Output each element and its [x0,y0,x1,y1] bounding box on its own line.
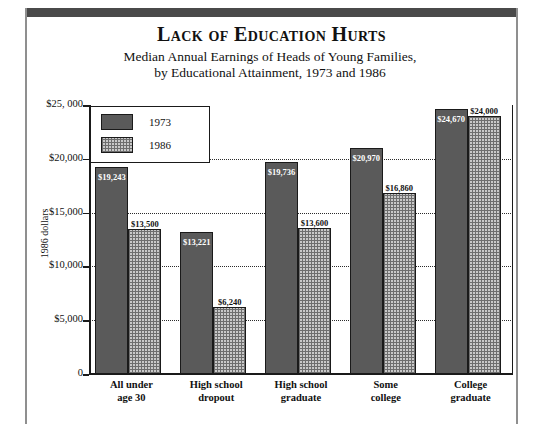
chart-title: Lack of Education Hurts [25,23,518,46]
chart-subtitle-line-1: Median Annual Earnings of Heads of Young… [124,49,417,64]
bar-value-label: $24,000 [458,106,511,116]
page-frame-left-rule [25,8,27,424]
chart-subtitle-line-2: by Educational Attainment, 1973 and 1986 [60,65,480,81]
bar-chart: 1986 dollars $25, 000$20,000$15,000$10,0… [30,100,516,385]
x-category-label-line: age 30 [89,392,174,405]
page-frame-right-rule [516,8,518,424]
legend-item-1986: 1986 [101,137,209,153]
chart-subtitle: Median Annual Earnings of Heads of Young… [60,49,480,81]
x-category-label: High schooldropout [174,379,259,404]
page-frame-top-bar [25,8,518,17]
bar-1973-5[interactable]: $24,670 [435,109,468,374]
x-category-label-line: College [428,379,513,392]
chart-legend: 1973 1986 [90,106,210,163]
legend-item-1973: 1973 [101,114,209,130]
x-category-label: Somecollege [343,379,428,404]
x-category-label: All underage 30 [89,379,174,404]
x-category-label-line: All under [89,379,174,392]
legend-label-1986: 1986 [149,139,171,151]
x-category-label: Collegegraduate [428,379,513,404]
x-category-label-line: graduate [428,392,513,405]
x-category-label-line: High school [259,379,344,392]
x-category-label-line: High school [174,379,259,392]
legend-swatch-1986 [101,137,133,153]
legend-swatch-1973 [101,114,133,130]
x-category-label-line: graduate [259,392,344,405]
x-category-label-line: college [343,392,428,405]
x-category-label: High schoolgraduate [259,379,344,404]
bar-1986-5[interactable]: $24,000 [468,116,501,374]
x-category-label-line: dropout [174,392,259,405]
plot-right-border [512,105,514,374]
x-category-label-line: Some [343,379,428,392]
legend-label-1973: 1973 [149,116,171,128]
